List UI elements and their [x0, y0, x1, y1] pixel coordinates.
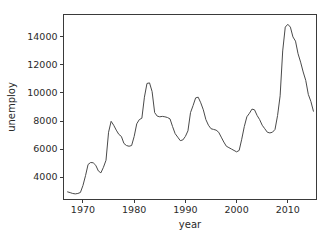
x-tick-label: 2000: [225, 204, 249, 215]
x-tick-label: 1980: [122, 204, 146, 215]
x-axis-label: year: [179, 219, 202, 230]
y-tick-label: 8000: [33, 115, 57, 126]
x-tick-label: 1970: [71, 204, 95, 215]
x-tick-label: 2010: [276, 204, 300, 215]
y-tick-label: 4000: [33, 171, 57, 182]
y-tick-label: 12000: [27, 59, 57, 70]
y-tick-label: 14000: [27, 31, 57, 42]
y-tick-label: 6000: [33, 143, 57, 154]
chart-figure: 400060008000100001200014000 197019801990…: [0, 0, 335, 246]
y-tick-label: 10000: [27, 87, 57, 98]
y-axis-label: unemploy: [6, 82, 17, 132]
unemployment-line-chart: 400060008000100001200014000 197019801990…: [0, 0, 335, 246]
x-tick-label: 1990: [173, 204, 197, 215]
